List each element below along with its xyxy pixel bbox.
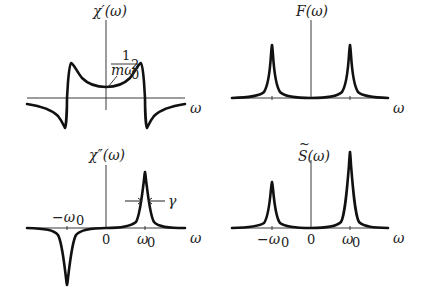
chi-double-prime-tick-pos-sub: 0	[147, 235, 155, 250]
gamma-label: γ	[168, 193, 177, 209]
annotation-denominator-sub: 0	[131, 67, 139, 82]
panel-S-tilde: S(ω) ~ −ω 0 0 ω 0 ω	[232, 136, 405, 250]
chi-double-prime-tick-neg-label: −ω	[52, 209, 76, 225]
annotation-numerator: 1	[122, 48, 130, 63]
S-tilde-tick-pos-sub: 0	[352, 235, 360, 250]
chi-prime-title: χ′(ω)	[92, 3, 127, 19]
panel-chi-double-prime: χ″(ω) −ω 0 0 ω 0 ω γ	[27, 147, 202, 285]
chi-double-prime-tick-neg-sub: 0	[76, 213, 84, 228]
panel-chi-prime: χ′(ω) ω 1 mω 2 0	[27, 3, 202, 128]
chi-double-prime-x-label: ω	[190, 230, 202, 246]
panel-F: F(ω) ω	[232, 3, 405, 116]
chi-prime-x-label: ω	[190, 100, 202, 116]
S-tilde-tilde-mark: ~	[299, 136, 310, 151]
F-curve	[232, 45, 388, 98]
chi-double-prime-tick-zero-label: 0	[102, 232, 110, 247]
S-tilde-x-label: ω	[393, 230, 405, 246]
F-x-label: ω	[393, 100, 405, 116]
S-tilde-tick-zero-label: 0	[307, 232, 315, 247]
F-title: F(ω)	[295, 3, 328, 19]
chi-double-prime-title: χ″(ω)	[88, 147, 125, 163]
S-tilde-tick-neg-label: −ω	[257, 231, 281, 247]
S-tilde-tick-neg-sub: 0	[281, 235, 289, 250]
figure-canvas: χ′(ω) ω 1 mω 2 0 F(ω) ω χ″(ω) −ω 0 0 ω 0…	[0, 0, 423, 298]
